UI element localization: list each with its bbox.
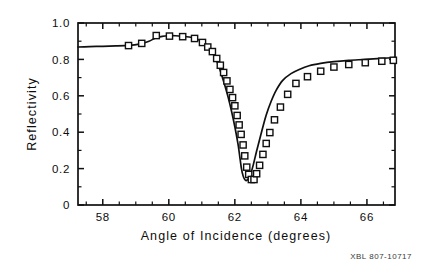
data-point-marker: [153, 32, 159, 38]
data-point-marker: [260, 151, 266, 157]
data-point-marker: [390, 57, 396, 63]
data-point-marker: [331, 64, 337, 70]
y-tick-label: 0.4: [52, 126, 70, 138]
data-point-marker: [263, 140, 269, 146]
data-point-marker: [240, 142, 246, 148]
data-point-marker: [285, 91, 291, 97]
data-point-marker: [236, 122, 242, 128]
y-tick-label: 0: [63, 199, 70, 211]
figure-container: 5860626466 00.20.40.60.81.0 Angle of Inc…: [0, 0, 426, 275]
data-point-marker: [214, 55, 220, 61]
data-point-marker: [277, 104, 283, 110]
data-point-marker: [257, 162, 263, 168]
data-point-marker: [191, 35, 197, 41]
data-point-marker: [293, 80, 299, 86]
x-tick-label: 66: [360, 211, 374, 223]
data-point-marker: [271, 117, 277, 123]
data-point-marker: [362, 60, 368, 66]
x-tick-label: 62: [228, 211, 242, 223]
data-point-marker: [209, 48, 215, 54]
data-point-marker: [346, 61, 352, 67]
y-tick-label: 0.6: [52, 90, 70, 102]
x-tick-label: 64: [294, 211, 308, 223]
y-tick-label: 1.0: [52, 17, 70, 29]
data-point-marker: [244, 164, 250, 170]
data-point-marker: [224, 78, 230, 84]
data-point-marker: [234, 112, 240, 118]
data-point-marker: [267, 129, 273, 135]
data-point-marker: [139, 40, 145, 46]
x-axis-title: Angle of Incidence (degrees): [141, 229, 332, 243]
y-axis-title: Reflectivity: [25, 77, 39, 151]
reflectivity-chart: 5860626466 00.20.40.60.81.0 Angle of Inc…: [0, 0, 426, 275]
data-point-marker: [379, 58, 385, 64]
data-point-marker: [318, 68, 324, 74]
data-point-marker: [232, 103, 238, 109]
data-point-marker: [125, 42, 131, 48]
x-tick-label: 58: [96, 211, 110, 223]
y-tick-label: 0.8: [52, 54, 70, 66]
figure-identifier: XBL 807-10717: [350, 252, 412, 261]
data-point-marker: [221, 69, 227, 75]
data-point-marker: [180, 34, 186, 40]
data-point-marker: [229, 95, 235, 101]
data-point-marker: [217, 62, 223, 68]
data-point-marker: [254, 171, 260, 177]
y-tick-label: 0.2: [52, 163, 70, 175]
data-point-marker: [304, 74, 310, 80]
data-point-marker: [166, 33, 172, 39]
data-point-marker: [227, 86, 233, 92]
x-tick-label: 60: [162, 211, 176, 223]
data-point-marker: [238, 131, 244, 137]
data-point-marker: [242, 153, 248, 159]
